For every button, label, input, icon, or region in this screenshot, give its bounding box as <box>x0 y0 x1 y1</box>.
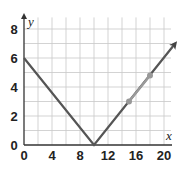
x-tick-label: 0 <box>20 148 27 163</box>
highlighted-segment <box>129 75 150 101</box>
y-tick-label: 8 <box>10 22 17 37</box>
plot-area <box>24 44 175 146</box>
y-tick-label: 0 <box>10 138 17 153</box>
x-tick-label: 4 <box>48 148 56 163</box>
point-marker <box>147 72 153 78</box>
y-axis-label: y <box>26 14 34 29</box>
y-tick-label: 2 <box>10 109 17 124</box>
x-tick-label: 16 <box>129 148 143 163</box>
x-tick-labels: 048121620 <box>20 148 171 163</box>
x-tick-label: 8 <box>76 148 83 163</box>
y-tick-label: 6 <box>10 51 17 66</box>
grid <box>24 17 171 145</box>
x-axis-label: x <box>165 128 172 143</box>
point-marker <box>126 99 132 105</box>
absolute-value-chart: y x 048121620 02468 <box>0 0 183 169</box>
graph-line <box>24 44 175 146</box>
x-tick-label: 12 <box>101 148 115 163</box>
y-tick-labels: 02468 <box>10 22 18 153</box>
y-tick-label: 4 <box>10 80 18 95</box>
x-tick-label: 20 <box>157 148 171 163</box>
